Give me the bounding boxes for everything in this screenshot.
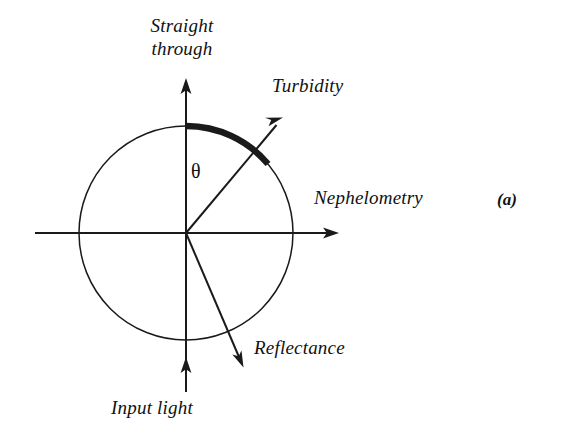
figure-panel: Straight through Turbidity Nephelometry …: [0, 0, 579, 441]
label-reflectance: Reflectance: [254, 336, 345, 359]
panel-identifier: (a): [497, 190, 517, 210]
label-input-light: Input light: [111, 396, 193, 419]
label-nephelometry: Nephelometry: [314, 186, 423, 209]
theta-arc: [186, 126, 268, 164]
label-turbidity: Turbidity: [272, 74, 343, 97]
scattering-geometry-diagram: [0, 0, 579, 441]
turbidity-arrowhead: [265, 118, 283, 127]
reflectance-ray-line: [186, 233, 239, 357]
label-theta-angle: θ: [191, 160, 201, 183]
label-straight-through: Straight through: [122, 14, 242, 60]
